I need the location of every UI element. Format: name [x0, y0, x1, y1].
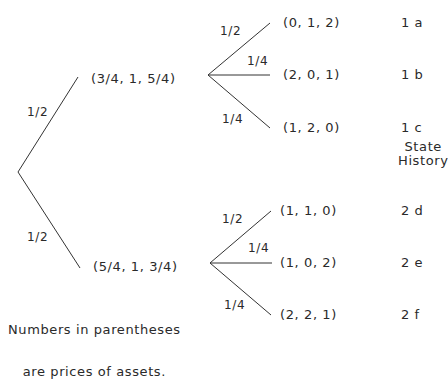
node-state-2-prices: (5/4, 1, 3/4)	[93, 260, 178, 274]
history-2f: 2 f	[401, 308, 420, 322]
history-1b: 1 b	[401, 68, 423, 82]
branch-root-upper	[18, 77, 78, 172]
prob-1c: 1/4	[222, 112, 243, 126]
leaf-1b-prices: (2, 0, 1)	[283, 68, 340, 82]
branch-root-lower	[18, 172, 80, 268]
prob-2f: 1/4	[224, 298, 245, 312]
prob-2e: 1/4	[248, 241, 269, 255]
footnote: Numbers in parentheses are prices of ass…	[8, 295, 181, 383]
prob-root-lower: 1/2	[27, 230, 48, 244]
header-line-2: History	[398, 154, 448, 168]
history-2e: 2 e	[401, 256, 423, 270]
leaf-1a-prices: (0, 1, 2)	[283, 16, 340, 30]
footnote-line-1: Numbers in parentheses	[8, 323, 181, 337]
prob-root-upper: 1/2	[27, 105, 48, 119]
leaf-1c-prices: (1, 2, 0)	[283, 121, 340, 135]
prob-2d: 1/2	[222, 212, 243, 226]
prob-1b: 1/4	[247, 54, 268, 68]
leaf-2d-prices: (1, 1, 0)	[280, 204, 337, 218]
header-line-1: State	[398, 140, 448, 154]
node-state-1-prices: (3/4, 1, 5/4)	[91, 72, 176, 86]
history-1a: 1 a	[401, 16, 423, 30]
state-history-header: State History	[398, 140, 448, 168]
footnote-line-2: are prices of assets.	[8, 365, 181, 379]
history-1c: 1 c	[401, 121, 422, 135]
leaf-2f-prices: (2, 2, 1)	[280, 308, 337, 322]
prob-1a: 1/2	[220, 24, 241, 38]
leaf-2e-prices: (1, 0, 2)	[280, 256, 337, 270]
history-2d: 2 d	[401, 204, 423, 218]
